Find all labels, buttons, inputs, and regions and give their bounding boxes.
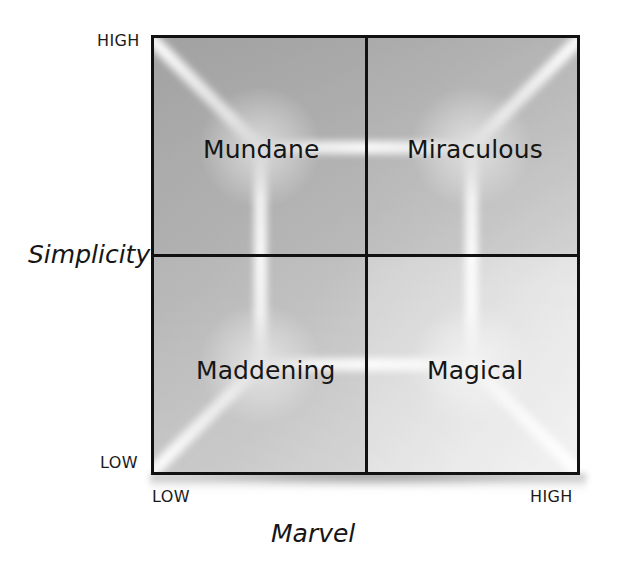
plot-area bbox=[151, 35, 580, 475]
horizontal-divider bbox=[154, 254, 577, 257]
y-axis-title: Simplicity bbox=[28, 240, 150, 269]
matrix-diagram: Simplicity HIGH LOW bbox=[0, 0, 617, 568]
quadrant-label-magical: Magical bbox=[427, 356, 523, 385]
y-axis-tick-low: LOW bbox=[100, 453, 138, 472]
x-axis-title: Marvel bbox=[271, 519, 355, 548]
x-axis-tick-high: HIGH bbox=[530, 487, 573, 506]
x-axis-tick-low: LOW bbox=[152, 487, 190, 506]
plot-drop-shadow-core bbox=[150, 474, 586, 490]
quadrant-label-maddening: Maddening bbox=[196, 356, 335, 385]
quadrant-label-miraculous: Miraculous bbox=[407, 135, 543, 164]
quadrant-label-mundane: Mundane bbox=[203, 135, 319, 164]
y-axis-tick-high: HIGH bbox=[97, 31, 140, 50]
